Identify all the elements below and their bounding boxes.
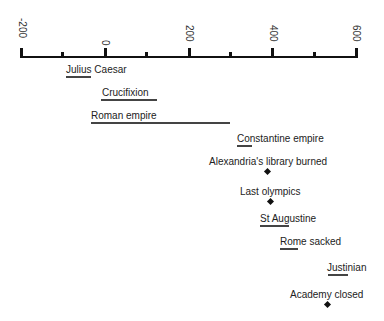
event-span-julius-caesar	[66, 76, 91, 78]
tick-label: 400	[268, 25, 279, 42]
event-label-last-olympics: Last olympics	[240, 186, 301, 197]
event-label-crucifixion: Crucifixion	[102, 87, 149, 98]
minor-tick	[61, 52, 64, 57]
tick-label: 200	[184, 25, 195, 42]
event-point-last-olympics	[267, 198, 274, 205]
major-tick	[271, 48, 274, 57]
event-span-st-augustine	[260, 225, 289, 227]
event-label-alexandria-library: Alexandria's library burned	[209, 156, 327, 167]
timeline-chart: -200 0 200 400 600 Julius Caesar Crucifi…	[0, 0, 384, 321]
event-label-constantine-empire: Constantine empire	[237, 133, 324, 144]
event-point-alexandria-library	[264, 168, 271, 175]
event-span-justinian	[328, 274, 348, 276]
event-label-rome-sacked: Rome sacked	[280, 236, 341, 247]
major-tick	[355, 48, 358, 57]
event-span-rome-sacked	[280, 248, 298, 250]
tick-label: 0	[100, 40, 111, 46]
event-label-st-augustine: St Augustine	[260, 213, 316, 224]
minor-tick	[229, 52, 232, 57]
event-span-constantine-empire	[237, 145, 252, 147]
major-tick	[104, 48, 107, 57]
event-label-julius-caesar: Julius Caesar	[66, 64, 127, 75]
event-span-roman-empire	[91, 122, 230, 124]
event-span-crucifixion	[101, 99, 157, 101]
minor-tick	[145, 52, 148, 57]
event-label-academy-closed: Academy closed	[290, 289, 363, 300]
major-tick	[188, 48, 191, 57]
major-tick	[20, 48, 23, 57]
minor-tick	[313, 52, 316, 57]
event-label-justinian: Justinian	[327, 262, 366, 273]
tick-label: -200	[17, 18, 28, 38]
event-point-academy-closed	[324, 301, 331, 308]
event-label-roman-empire: Roman empire	[91, 110, 157, 121]
tick-label: 600	[351, 25, 362, 42]
